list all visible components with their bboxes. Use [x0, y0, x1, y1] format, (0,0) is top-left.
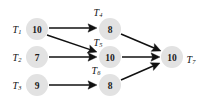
node-t5[interactable]: 10	[99, 46, 121, 68]
node-value: 9	[35, 81, 40, 91]
edge-t3-to-t6	[49, 81, 97, 89]
task-label-subscript: 1	[18, 28, 21, 35]
node-label-t4: T4	[94, 7, 104, 18]
task-label-subscript: 5	[99, 41, 102, 48]
node-label-t6: T6	[92, 65, 102, 76]
task-label-text: T2	[13, 52, 23, 63]
edge-line	[47, 35, 92, 50]
task-label-subscript: 2	[18, 56, 22, 63]
task-label-subscript: 3	[17, 84, 21, 91]
node-label-t7: T7	[187, 54, 197, 65]
task-label-subscript: 4	[99, 11, 103, 18]
edge-t2-to-t5	[49, 53, 97, 61]
node-label-t3: T3	[13, 80, 22, 91]
task-label-subscript: 7	[192, 58, 196, 65]
task-label-text: T4	[94, 7, 104, 18]
node-label-t1: T1	[13, 24, 22, 35]
edge-t4-to-t7	[121, 34, 161, 51]
task-label-text: T1	[13, 24, 22, 35]
task-label-text: T7	[187, 54, 197, 65]
node-label-t2: T2	[13, 52, 23, 63]
node-t2[interactable]: 7	[26, 46, 48, 68]
node-t1[interactable]: 10	[26, 18, 48, 40]
task-label-text: T3	[13, 80, 22, 91]
node-value: 10	[105, 53, 115, 63]
node-value: 8	[108, 25, 113, 35]
node-value: 8	[108, 81, 113, 91]
node-t6[interactable]: 8	[99, 74, 121, 96]
node-value: 10	[32, 25, 42, 35]
node-t7[interactable]: 10	[161, 46, 183, 68]
node-t4[interactable]: 8	[99, 18, 121, 40]
node-value: 10	[167, 53, 177, 63]
edge-line	[121, 65, 155, 80]
node-value: 7	[35, 53, 40, 63]
graph-canvas: 1079810810 T1T2T3T4T5T6T7	[0, 0, 204, 104]
task-label-subscript: 6	[97, 69, 101, 76]
task-graph-diagram: 1079810810 T1T2T3T4T5T6T7	[0, 0, 204, 104]
edge-t1-to-t5	[47, 35, 97, 53]
node-t3[interactable]: 9	[26, 74, 48, 96]
edge-t6-to-t7	[121, 63, 160, 80]
edge-line	[121, 34, 156, 49]
edge-t1-to-t4	[49, 24, 97, 32]
node-label-t5: T5	[94, 37, 103, 48]
edge-t5-to-t7	[122, 53, 160, 61]
task-label-text: T5	[94, 37, 103, 48]
task-label-text: T6	[92, 65, 102, 76]
